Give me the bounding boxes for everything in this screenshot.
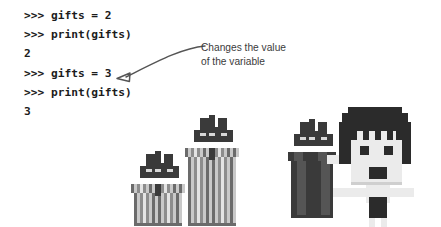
code-line: >>> print(gifts) <box>24 25 224 44</box>
annotation-line-1: Changes the value <box>201 41 321 55</box>
code-output-line: 2 <box>24 44 224 63</box>
annotation-line-2: of the variable <box>201 55 321 69</box>
character-illustration <box>288 104 414 227</box>
code-line: >>> gifts = 2 <box>24 6 224 25</box>
code-line-highlighted: >>> gifts = 3 <box>24 64 224 83</box>
annotation-callout: Changes the value of the variable <box>201 41 321 68</box>
code-line: >>> print(gifts) <box>24 83 224 102</box>
code-listing: >>> gifts = 2 >>> print(gifts) 2 >>> gif… <box>24 6 224 121</box>
gift-boxes-illustration <box>128 112 260 227</box>
